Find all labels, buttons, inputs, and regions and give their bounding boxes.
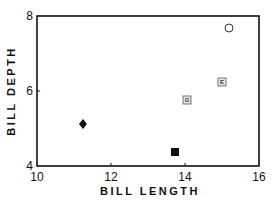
x-tick-label-16: 16 <box>252 170 266 184</box>
x-tick-label-12: 12 <box>104 170 118 184</box>
y-tick-label-4: 4 <box>26 159 33 173</box>
e-marker: E <box>218 78 226 86</box>
plot-frame <box>37 16 259 166</box>
open-circle-marker <box>225 24 233 32</box>
g-marker-letter: G <box>185 97 190 103</box>
x-tick-labels: 10 12 14 16 <box>30 170 266 184</box>
y-tick-label-8: 8 <box>26 9 33 23</box>
y-tick-labels: 4 6 8 <box>26 9 33 173</box>
y-axis-title: BILL DEPTH <box>5 46 17 136</box>
y-tick-label-6: 6 <box>26 84 33 98</box>
e-marker-letter: E <box>220 79 224 85</box>
filled-diamond-marker <box>79 119 87 129</box>
g-marker: G <box>183 96 191 104</box>
scatter-chart: 10 12 14 16 4 6 8 BILL LENGTH BILL DEPTH… <box>0 0 275 208</box>
data-points: G E <box>79 24 233 156</box>
filled-square-marker <box>171 148 179 156</box>
x-tick-label-14: 14 <box>178 170 192 184</box>
x-axis-title: BILL LENGTH <box>100 185 200 197</box>
